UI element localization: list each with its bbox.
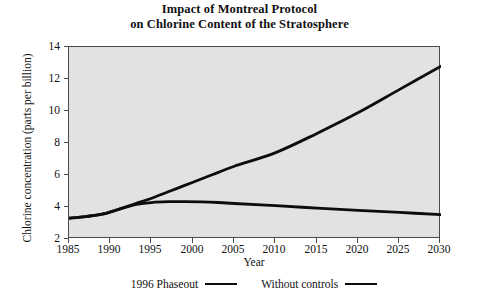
y-tick-label: 14 [20, 41, 60, 53]
y-tick-label: 4 [20, 201, 60, 213]
x-tick-label: 2020 [335, 244, 379, 256]
y-tick-label: 8 [20, 137, 60, 149]
legend-entry-1996-phaseout: 1996 Phaseout [131, 278, 237, 290]
legend-entry-without-controls: Without controls [261, 278, 377, 290]
x-tick-label: 1995 [128, 244, 172, 256]
x-tick-label: 2015 [294, 244, 338, 256]
line-series-without-controls [69, 66, 441, 218]
line-series-1996-phaseout [69, 202, 441, 219]
y-tick-label: 2 [20, 233, 60, 245]
x-tick-label: 2010 [252, 244, 296, 256]
plot-lines [69, 47, 441, 239]
chart-title: Impact of Montreal Protocol on Chlorine … [0, 2, 479, 32]
chart-title-line-2: on Chlorine Content of the Stratosphere [0, 17, 479, 32]
x-tick-label: 2030 [417, 244, 461, 256]
x-tick-label: 1985 [46, 244, 90, 256]
x-tick-label: 1990 [87, 244, 131, 256]
legend-label: 1996 Phaseout [131, 278, 198, 290]
x-tick-label: 2000 [170, 244, 214, 256]
y-tick-label: 10 [20, 105, 60, 117]
chart-legend: 1996 Phaseout Without controls [68, 278, 440, 290]
x-axis-title: Year [68, 256, 440, 268]
x-tick-label: 2005 [211, 244, 255, 256]
y-tick-label: 12 [20, 73, 60, 85]
legend-label: Without controls [261, 278, 338, 290]
plot-area [68, 46, 440, 238]
x-tick-label: 2025 [376, 244, 420, 256]
chart-figure: Impact of Montreal Protocol on Chlorine … [0, 0, 479, 306]
y-tick-label: 6 [20, 169, 60, 181]
legend-line-swatch [345, 283, 377, 286]
chart-title-line-1: Impact of Montreal Protocol [0, 2, 479, 17]
legend-line-swatch [205, 283, 237, 286]
